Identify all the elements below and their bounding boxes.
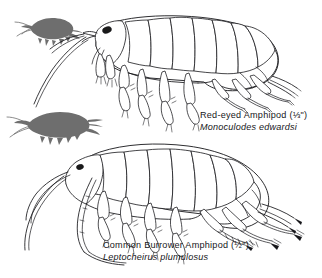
caption-red-eyed-amphipod: Red-eyed Amphipod (⅓") Monoculodes edwar…	[200, 110, 307, 133]
amphipod-illustrations: .ln { fill:none; stroke:#16161a; stroke-…	[0, 0, 322, 278]
common-name-common-burrower-amphipod: Common Burrower Amphipod (½")	[103, 240, 249, 252]
illustration-plate: .ln { fill:none; stroke:#16161a; stroke-…	[0, 0, 322, 278]
common-name-red-eyed-amphipod: Red-eyed Amphipod (⅓")	[200, 110, 307, 122]
red-eyed-amphipod-silhouette	[15, 18, 83, 46]
scientific-name-leptocheirus-plumulosus: Leptocheirus plumulosus	[103, 252, 249, 264]
scientific-name-monoculodes-edwardsi: Monoculodes edwardsi	[200, 122, 307, 134]
caption-common-burrower-amphipod: Common Burrower Amphipod (½") Leptocheir…	[103, 240, 249, 263]
common-burrower-amphipod-silhouette	[7, 112, 103, 145]
